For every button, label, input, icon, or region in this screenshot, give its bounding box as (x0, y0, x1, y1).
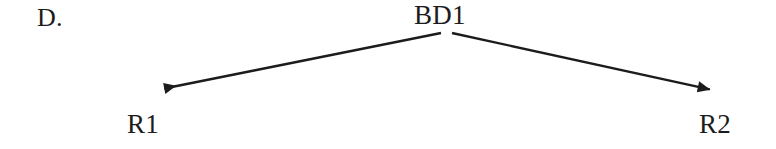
edge-bd1-to-r1 (164, 33, 441, 89)
node-label-bd1: BD1 (414, 2, 466, 29)
edge-bd1-to-r2 (452, 33, 710, 89)
bifurcation-diagram-panel: D. BD1 R1 R2 (0, 0, 776, 149)
panel-label: D. (37, 5, 63, 31)
edge-canvas (0, 0, 776, 149)
node-label-r2: R2 (699, 111, 731, 138)
node-label-r1: R1 (127, 111, 159, 138)
